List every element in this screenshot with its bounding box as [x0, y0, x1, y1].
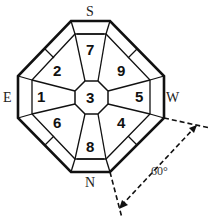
- sector-1: 1: [37, 88, 45, 105]
- label-south: S: [86, 4, 94, 19]
- label-east: E: [3, 90, 12, 105]
- sector-3: 3: [86, 89, 94, 106]
- angle-label: 60°: [151, 164, 168, 178]
- label-north: N: [85, 175, 95, 190]
- sector-4: 4: [117, 114, 126, 131]
- sector-7: 7: [86, 41, 94, 58]
- sector-5: 5: [135, 88, 143, 105]
- arrow-head-lower: [119, 200, 128, 209]
- label-west: W: [166, 90, 180, 105]
- sector-9: 9: [117, 62, 125, 79]
- sector-2: 2: [53, 62, 61, 79]
- sector-6: 6: [53, 114, 61, 131]
- octagon-diagram: S E W N 7 2 9 1 3 5 6 4 8 60°: [0, 0, 211, 220]
- sector-8: 8: [86, 138, 94, 155]
